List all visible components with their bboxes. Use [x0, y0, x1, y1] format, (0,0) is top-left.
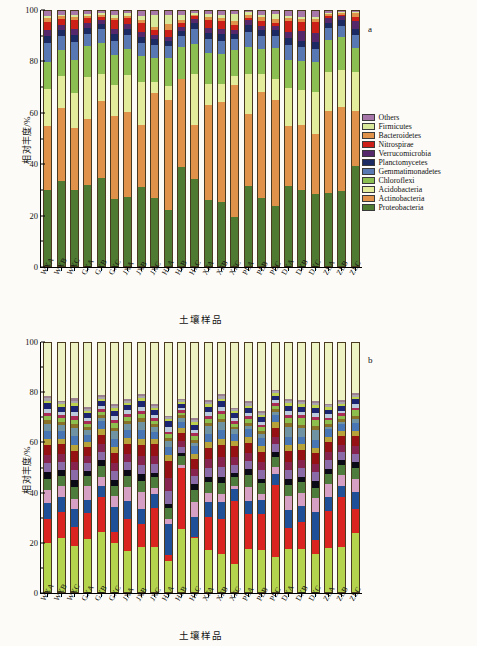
stacked-bar[interactable]: [230, 342, 239, 593]
stacked-bar[interactable]: [70, 10, 79, 267]
bar-segment: [352, 454, 359, 462]
bar-segment: [84, 185, 91, 266]
stacked-bar[interactable]: [150, 10, 159, 267]
bar-segment: [44, 89, 51, 126]
bar-segment: [245, 443, 252, 453]
stacked-bar[interactable]: [110, 342, 119, 593]
legend-item[interactable]: Proteobacteria: [362, 203, 441, 212]
bar-segment: [98, 343, 105, 395]
bar-segment: [178, 36, 185, 47]
bar-slot: [215, 10, 228, 267]
stacked-bar[interactable]: [123, 10, 132, 267]
bar-segment: [191, 476, 198, 484]
stacked-bar[interactable]: [351, 10, 360, 267]
bar-segment: [151, 45, 158, 58]
legend-item[interactable]: Verrucomicrobia: [362, 149, 441, 158]
bar-slot: [268, 10, 281, 267]
bar-segment: [338, 452, 345, 460]
bar-segment: [165, 491, 172, 503]
legend-item[interactable]: Others: [362, 113, 441, 122]
bar-segment: [258, 514, 265, 550]
bar-segment: [84, 46, 91, 77]
stacked-bar[interactable]: [311, 10, 320, 267]
stacked-bar[interactable]: [83, 10, 92, 267]
stacked-bar[interactable]: [244, 342, 253, 593]
stacked-bar[interactable]: [244, 10, 253, 267]
stacked-bar[interactable]: [257, 10, 266, 267]
stacked-bar[interactable]: [137, 342, 146, 593]
bar-segment: [44, 490, 51, 503]
bar-segment: [58, 50, 65, 76]
bar-slot: [322, 10, 335, 267]
bar-segment: [272, 206, 279, 266]
stacked-bar[interactable]: [324, 342, 333, 593]
y-tick: [41, 10, 45, 11]
stacked-bar[interactable]: [337, 342, 346, 593]
bar-slot: [228, 342, 241, 593]
y-tick: [41, 267, 45, 268]
bar-segment: [71, 470, 78, 480]
stacked-bar[interactable]: [351, 342, 360, 593]
stacked-bar[interactable]: [297, 10, 306, 267]
stacked-bar[interactable]: [70, 342, 79, 593]
stacked-bar[interactable]: [123, 342, 132, 593]
bar-segment: [138, 474, 145, 481]
bar-segment: [191, 502, 198, 517]
bar-segment: [205, 482, 212, 494]
bar-segment: [58, 454, 65, 461]
bar-segment: [218, 502, 225, 519]
stacked-bar[interactable]: [284, 10, 293, 267]
stacked-bar[interactable]: [110, 10, 119, 267]
bar-segment: [298, 125, 305, 189]
plot-area-a: WXAWXBWXCGXAGXBGXCJXAJXBJXCHLAHLBHLCXFAX…: [40, 10, 362, 268]
stacked-bar[interactable]: [204, 342, 213, 593]
stacked-bar[interactable]: [190, 10, 199, 267]
stacked-bar[interactable]: [217, 342, 226, 593]
bar-segment: [272, 100, 279, 206]
bar-segment: [111, 439, 118, 447]
legend-item[interactable]: Planctomycetes: [362, 158, 441, 167]
stacked-bar[interactable]: [97, 342, 106, 593]
bar-segment: [44, 455, 51, 463]
stacked-bar[interactable]: [217, 10, 226, 267]
bar-segment: [205, 343, 212, 400]
stacked-bar[interactable]: [311, 342, 320, 593]
bar-segment: [205, 493, 212, 502]
legend-label: Actinobacteria: [379, 195, 425, 203]
stacked-bar[interactable]: [177, 10, 186, 267]
bar-segment: [272, 444, 279, 452]
y-axis-tick-label: 40: [30, 488, 42, 498]
bar-segment: [111, 55, 118, 85]
stacked-bar[interactable]: [257, 342, 266, 593]
legend-item[interactable]: Firmicutes: [362, 122, 441, 131]
bar-segment: [124, 462, 131, 471]
stacked-bar[interactable]: [150, 342, 159, 593]
legend-item[interactable]: Gemmatimonadetes: [362, 167, 441, 176]
stacked-bar[interactable]: [137, 10, 146, 267]
stacked-bar[interactable]: [324, 10, 333, 267]
stacked-bar[interactable]: [43, 342, 52, 593]
bar-segment: [285, 510, 292, 528]
stacked-bar[interactable]: [190, 342, 199, 593]
stacked-bar[interactable]: [43, 10, 52, 267]
bar-slot: [68, 342, 81, 593]
stacked-bar[interactable]: [83, 342, 92, 593]
stacked-bar[interactable]: [230, 10, 239, 267]
bar-slot: [255, 10, 268, 267]
legend-item[interactable]: Bacteroidetes: [362, 131, 441, 140]
stacked-bar[interactable]: [204, 10, 213, 267]
stacked-bar[interactable]: [57, 10, 66, 267]
stacked-bar[interactable]: [57, 342, 66, 593]
stacked-bar[interactable]: [164, 342, 173, 593]
bar-segment: [298, 468, 305, 477]
stacked-bar[interactable]: [271, 10, 280, 267]
bar-slot: [295, 342, 308, 593]
legend-item[interactable]: Nitrospirae: [362, 140, 441, 149]
stacked-bar[interactable]: [177, 342, 186, 593]
stacked-bar[interactable]: [164, 10, 173, 267]
stacked-bar[interactable]: [284, 342, 293, 593]
stacked-bar[interactable]: [97, 10, 106, 267]
stacked-bar[interactable]: [271, 342, 280, 593]
stacked-bar[interactable]: [297, 342, 306, 593]
stacked-bar[interactable]: [337, 10, 346, 267]
